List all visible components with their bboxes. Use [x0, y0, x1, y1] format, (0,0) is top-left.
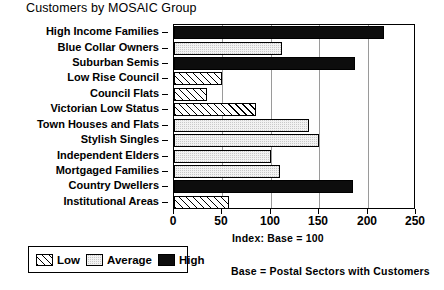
x-tick-label: 50	[214, 214, 227, 228]
category-label: Suburban Semis	[72, 56, 159, 69]
category-tick	[162, 186, 168, 187]
bar	[174, 150, 271, 163]
category-tick	[162, 171, 168, 172]
legend-label: High	[179, 254, 205, 266]
legend-swatch-average	[86, 254, 103, 266]
legend-item-low: Low	[36, 254, 80, 266]
x-tick-label: 150	[308, 214, 328, 228]
bar-row	[174, 150, 416, 163]
bar-row	[174, 119, 416, 132]
category-label: Mortgaged Families	[56, 164, 159, 177]
x-tick-label: 250	[405, 214, 425, 228]
bar	[174, 180, 353, 193]
category-label: High Income Families	[46, 25, 159, 38]
chart-title: Customers by MOSAIC Group	[26, 1, 197, 15]
bar-row	[174, 165, 416, 178]
chart-legend: LowAverageHigh	[28, 246, 188, 273]
legend-label: Low	[57, 254, 80, 266]
category-label: Independent Elders	[57, 149, 159, 162]
bar-row	[174, 26, 416, 39]
bar	[174, 196, 229, 209]
bar-row	[174, 103, 416, 116]
bar-row	[174, 72, 416, 85]
category-tick	[162, 48, 168, 49]
bar	[174, 72, 222, 85]
bar-row	[174, 196, 416, 209]
category-tick	[162, 78, 168, 79]
category-tick	[162, 94, 168, 95]
bar	[174, 88, 207, 101]
legend-swatch-high	[158, 254, 175, 266]
chart-footnote: Base = Postal Sectors with Customers	[231, 265, 430, 277]
bar-row	[174, 42, 416, 55]
category-tick	[162, 109, 168, 110]
bar-row	[174, 57, 416, 70]
category-label: Institutional Areas	[63, 195, 159, 208]
x-tick-label: 100	[260, 214, 280, 228]
bar	[174, 26, 384, 39]
category-tick	[162, 125, 168, 126]
category-label: Country Dwellers	[69, 179, 159, 192]
bar	[174, 103, 256, 116]
plot-area	[173, 24, 415, 209]
bar-row	[174, 88, 416, 101]
category-tick	[162, 63, 168, 64]
x-axis-label: Index: Base = 100	[232, 232, 324, 244]
category-label: Council Flats	[90, 87, 159, 100]
bar-series	[174, 25, 414, 208]
category-label: Blue Collar Owners	[58, 41, 159, 54]
x-axis-tick-labels: 050100150200250	[0, 214, 444, 230]
bar	[174, 119, 309, 132]
category-tick	[162, 156, 168, 157]
bar	[174, 134, 319, 147]
bar	[174, 57, 355, 70]
legend-swatch-low	[36, 254, 53, 266]
category-label: Stylish Singles	[81, 133, 159, 146]
legend-item-average: Average	[86, 254, 152, 266]
category-tick	[162, 32, 168, 33]
x-tick-label: 0	[170, 214, 177, 228]
category-label: Low Rise Council	[67, 71, 159, 84]
bar-row	[174, 180, 416, 193]
category-tick	[162, 202, 168, 203]
x-tick-label: 200	[357, 214, 377, 228]
bar	[174, 165, 280, 178]
category-tick	[162, 140, 168, 141]
chart-screenshot: Customers by MOSAIC Group High Income Fa…	[0, 0, 444, 290]
category-label: Victorian Low Status	[50, 102, 159, 115]
legend-item-high: High	[158, 254, 205, 266]
bar	[174, 42, 282, 55]
bar-row	[174, 134, 416, 147]
legend-label: Average	[107, 254, 152, 266]
category-label: Town Houses and Flats	[37, 118, 159, 131]
category-axis: High Income FamiliesBlue Collar OwnersSu…	[0, 24, 168, 209]
